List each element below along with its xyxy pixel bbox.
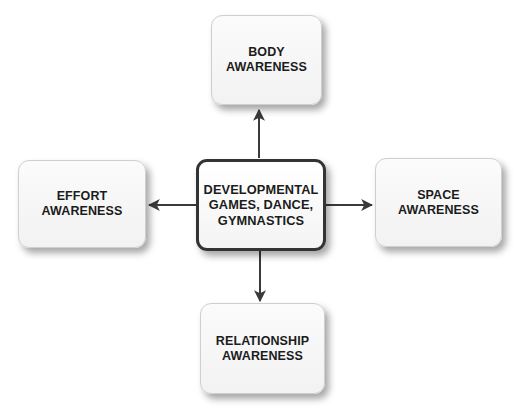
relationship-awareness-box: RELATIONSHIP AWARENESS bbox=[200, 303, 325, 394]
relationship-awareness-line-2: AWARENESS bbox=[216, 349, 309, 364]
developmental-center-box: DEVELOPMENTAL GAMES, DANCE, GYMNASTICS bbox=[196, 159, 326, 251]
space-awareness-box: SPACE AWARENESS bbox=[375, 158, 502, 247]
center-line-2: GAMES, DANCE, bbox=[204, 197, 319, 213]
relationship-awareness-line-1: RELATIONSHIP bbox=[216, 334, 309, 349]
body-awareness-line-1: BODY bbox=[226, 45, 307, 60]
effort-awareness-box: EFFORT AWARENESS bbox=[18, 160, 146, 248]
center-line-3: GYMNASTICS bbox=[204, 213, 319, 229]
effort-awareness-line-2: AWARENESS bbox=[42, 204, 123, 219]
space-awareness-line-1: SPACE bbox=[398, 188, 479, 203]
body-awareness-line-2: AWARENESS bbox=[226, 60, 307, 75]
space-awareness-line-2: AWARENESS bbox=[398, 203, 479, 218]
effort-awareness-line-1: EFFORT bbox=[42, 189, 123, 204]
body-awareness-box: BODY AWARENESS bbox=[211, 15, 322, 105]
center-line-1: DEVELOPMENTAL bbox=[204, 182, 319, 198]
